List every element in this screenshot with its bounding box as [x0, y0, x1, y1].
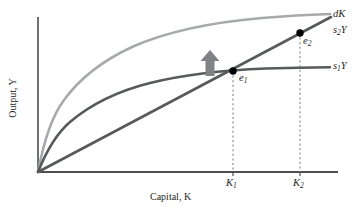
tick-label-k1-subscript: 1 — [233, 181, 237, 190]
point-label-e2-subscript: 2 — [308, 39, 312, 48]
tick-label-k1-base: K — [226, 177, 233, 188]
curve-label-s1y: s1Y — [333, 61, 347, 72]
solow-growth-diagram: Output, Y Capital, K K1 K2 dK s2Y s1Y e1… — [0, 0, 358, 213]
tick-label-k2-subscript: 2 — [300, 181, 304, 190]
curve-s1y — [38, 67, 330, 172]
tick-label-k2-base: K — [293, 177, 300, 188]
x-axis-label: Capital, K — [150, 192, 191, 202]
y-axis-label-text: Output, Y — [8, 78, 18, 118]
point-label-e2-base: e — [303, 35, 308, 46]
curve-label-s1y-tail: Y — [341, 60, 347, 71]
curve-label-s2y-subscript: 2 — [337, 28, 341, 37]
tick-label-k2: K2 — [293, 178, 304, 189]
y-axis-label: Output, Y — [6, 52, 20, 144]
point-label-e1-subscript: 1 — [244, 76, 248, 85]
point-e1 — [229, 67, 236, 74]
point-label-e2: e2 — [303, 36, 311, 47]
curve-label-dk: dK — [333, 9, 345, 20]
tick-label-k1: K1 — [226, 178, 237, 189]
point-label-e1-base: e — [239, 72, 244, 83]
plot-area — [0, 0, 358, 213]
point-label-e1: e1 — [239, 73, 247, 84]
line-dk — [38, 17, 331, 172]
curve-label-s1y-subscript: 1 — [337, 64, 341, 73]
curve-label-s2y-tail: Y — [341, 24, 347, 35]
curve-label-s2y: s2Y — [333, 25, 347, 36]
